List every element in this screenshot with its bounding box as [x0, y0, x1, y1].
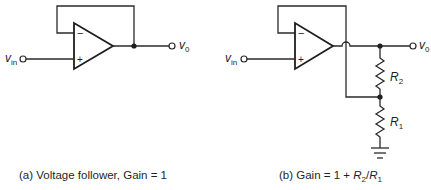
ground-icon [371, 148, 389, 158]
r2-label: R2 [390, 70, 404, 86]
circuit-b-noninverting-amplifier: − + vin v0 R2 R1 (b) Gain = 1 + R2/R1 [225, 6, 430, 184]
circuit-diagram: − + vin v0 (a) Voltage follower, Gain = … [0, 0, 431, 190]
output-node-a [131, 43, 136, 48]
circuit-a-voltage-follower: − + vin v0 (a) Voltage follower, Gain = … [5, 6, 190, 181]
output-wire-b [333, 42, 410, 46]
caption-a: (a) Voltage follower, Gain = 1 [19, 169, 167, 181]
plus-sign-b: + [298, 54, 304, 65]
input-terminal-a [20, 56, 26, 62]
vin-label-b: vin [225, 51, 237, 67]
minus-sign-a: − [77, 27, 83, 39]
plus-sign-a: + [77, 54, 83, 65]
r1-label: R1 [390, 115, 404, 131]
input-terminal-b [241, 56, 247, 62]
output-terminal-a [169, 43, 175, 49]
vout-label-a: v0 [179, 38, 190, 54]
vin-label-a: vin [5, 51, 17, 67]
minus-sign-b: − [298, 27, 304, 39]
feedback-wire-a [57, 6, 134, 46]
caption-b: (b) Gain = 1 + R2/R1 [279, 169, 382, 184]
feedback-wire-b [278, 6, 380, 97]
output-terminal-b [410, 43, 416, 49]
resistor-r1 [376, 97, 384, 148]
vout-label-b: v0 [419, 38, 430, 54]
resistor-r2 [376, 46, 384, 97]
